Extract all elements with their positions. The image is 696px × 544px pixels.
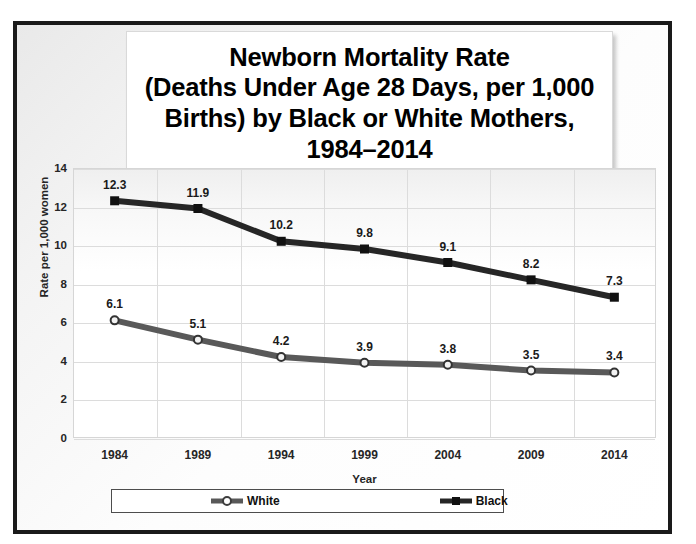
data-point-label: 7.3 <box>584 274 644 288</box>
data-point-marker[interactable] <box>110 196 119 205</box>
data-point-label: 5.1 <box>168 317 228 331</box>
x-axis-tick-label: 1999 <box>330 448 400 462</box>
chart-legend: White Black <box>111 489 504 513</box>
data-point-label: 11.9 <box>168 186 228 200</box>
data-point-marker[interactable] <box>443 258 452 267</box>
data-point-marker[interactable] <box>610 368 618 376</box>
legend-white-marker-icon <box>210 495 244 507</box>
data-point-marker[interactable] <box>527 275 536 284</box>
plot-wrapper: 14121086420 Rate per 1,000 women 1984198… <box>17 25 668 530</box>
y-axis-tick-label: 2 <box>33 393 67 405</box>
data-point-marker[interactable] <box>277 353 285 361</box>
data-point-marker[interactable] <box>444 361 452 369</box>
x-axis-tick-label: 2009 <box>496 448 566 462</box>
data-point-marker[interactable] <box>527 367 535 375</box>
x-axis-ticks: 1984198919941999200420092014 <box>73 448 656 468</box>
data-point-label: 3.5 <box>501 348 561 362</box>
x-axis-tick-label: 1994 <box>246 448 316 462</box>
legend-item-black[interactable]: Black <box>439 494 508 508</box>
x-axis-tick-label: 2004 <box>413 448 483 462</box>
series-layer <box>73 168 656 438</box>
x-axis-tick-label: 2014 <box>579 448 649 462</box>
y-axis-tick-label: 4 <box>33 355 67 367</box>
gridline-horizontal <box>74 439 655 440</box>
data-point-marker[interactable] <box>193 204 202 213</box>
data-point-label: 4.2 <box>251 334 311 348</box>
legend-label-black: Black <box>476 494 508 508</box>
data-point-label: 3.4 <box>584 349 644 363</box>
legend-black-marker-icon <box>439 495 473 507</box>
x-axis-tick-label: 1989 <box>163 448 233 462</box>
legend-label-white: White <box>247 494 280 508</box>
data-point-label: 6.1 <box>85 297 145 311</box>
x-axis-title: Year <box>73 473 656 485</box>
y-axis-tick-label: 0 <box>33 432 67 444</box>
data-point-label: 9.8 <box>335 226 395 240</box>
data-point-marker[interactable] <box>194 336 202 344</box>
data-point-marker[interactable] <box>610 293 619 302</box>
data-point-label: 3.8 <box>418 342 478 356</box>
data-point-label: 8.2 <box>501 257 561 271</box>
data-point-marker[interactable] <box>360 245 369 254</box>
data-point-label: 12.3 <box>85 178 145 192</box>
chart-frame: Newborn Mortality Rate (Deaths Under Age… <box>13 21 672 534</box>
data-point-marker[interactable] <box>111 316 119 324</box>
x-axis-tick-label: 1984 <box>80 448 150 462</box>
data-point-marker[interactable] <box>277 237 286 246</box>
y-axis-title: Rate per 1,000 women <box>38 142 50 332</box>
data-point-label: 9.1 <box>418 240 478 254</box>
data-point-label: 10.2 <box>251 218 311 232</box>
legend-item-white[interactable]: White <box>210 494 280 508</box>
data-point-marker[interactable] <box>361 359 369 367</box>
data-point-label: 3.9 <box>335 340 395 354</box>
